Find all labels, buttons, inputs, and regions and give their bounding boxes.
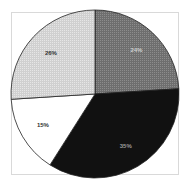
slice-label: 15% [37, 122, 50, 128]
pie-chart: 24%35%15%26% [0, 0, 189, 190]
slice-label: 35% [120, 143, 133, 149]
slice-label: 24% [130, 47, 143, 53]
slice-label: 26% [45, 50, 58, 56]
